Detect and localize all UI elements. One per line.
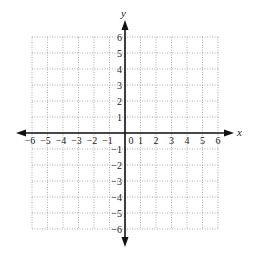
y-tick-label: 2 — [117, 96, 122, 107]
x-axis-label: x — [236, 126, 242, 138]
y-tick-label: −1 — [111, 144, 122, 155]
x-tick-label: 1 — [138, 135, 143, 146]
x-tick-label: 3 — [169, 135, 174, 146]
y-tick-label: −3 — [111, 176, 122, 187]
y-tick-label: 3 — [117, 80, 122, 91]
y-axis-bottom-arrow-icon — [122, 237, 129, 247]
x-tick-label: −5 — [40, 135, 51, 146]
coordinate-plane: x y −6−5−4−3−2−10123456−6−5−4−3−2−112345… — [0, 0, 253, 259]
x-tick-label: −6 — [25, 135, 36, 146]
y-tick-label: 5 — [117, 48, 122, 59]
x-tick-label: 4 — [185, 135, 190, 146]
y-tick-label: −2 — [111, 160, 122, 171]
y-tick-label: −4 — [111, 192, 122, 203]
x-tick-label: 5 — [200, 135, 205, 146]
y-tick-label: 4 — [117, 64, 122, 75]
x-tick-label: 0 — [129, 135, 134, 146]
x-tick-label: −4 — [56, 135, 67, 146]
y-tick-label: 1 — [117, 112, 122, 123]
x-axis-right-arrow-icon — [224, 130, 234, 137]
axes: x y — [16, 7, 242, 247]
y-tick-label: −6 — [111, 224, 122, 235]
y-tick-label: 6 — [117, 32, 122, 43]
y-axis-label: y — [120, 7, 126, 19]
x-tick-label: −3 — [71, 135, 82, 146]
y-tick-label: −5 — [111, 208, 122, 219]
x-tick-label: 2 — [154, 135, 159, 146]
y-axis-top-arrow-icon — [122, 20, 129, 30]
x-tick-label: −2 — [87, 135, 98, 146]
x-tick-label: 6 — [216, 135, 221, 146]
